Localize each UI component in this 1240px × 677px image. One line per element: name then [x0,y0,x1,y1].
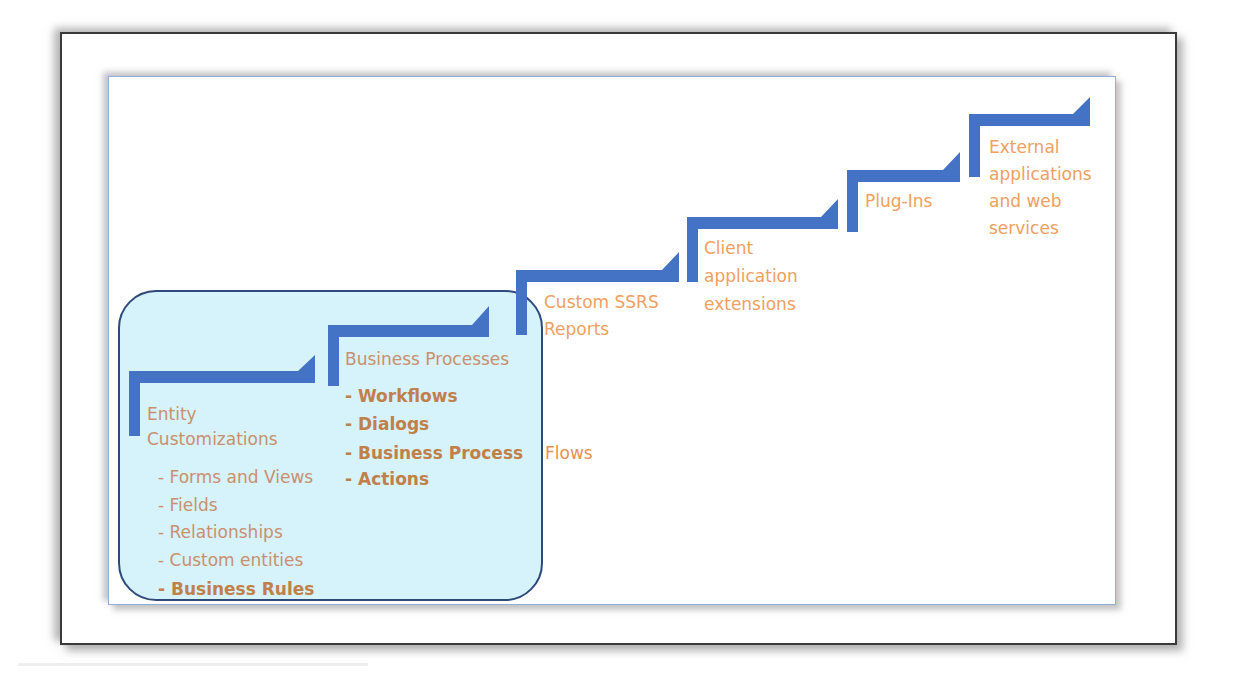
step-6-title-line-4: services [989,216,1059,240]
step-2-bold-item: - Business Process [345,441,523,465]
step-6-title-line-3: and web [989,189,1062,213]
step-2-bold-item: - Dialogs [345,412,429,436]
step-3-title-line-2: Reports [544,317,609,341]
step-2-bold-item: - Actions [345,467,429,491]
step-1-item: - Fields [158,493,218,517]
step-1-title-line-2: Customizations [147,427,278,451]
step-4-title-line-2: application [704,264,798,288]
step-2-bar [328,306,489,386]
step-1-title-line-1: Entity [147,402,197,426]
step-4-title-line-3: extensions [704,292,796,316]
step-6-title-line-2: applications [989,162,1092,186]
step-2-bold-item: - Workflows [345,384,458,408]
step-shape-1 [0,0,1240,677]
step-1-item: - Custom entities [158,548,303,572]
step-3-title-line-1: Custom SSRS [544,290,659,314]
step-1-bold-item: - Business Rules [158,577,314,601]
step-1-item: - Relationships [158,520,283,544]
step-2-title: Business Processes [345,347,509,371]
step-2-overflow-text: Flows [545,441,593,465]
step-6-title-line-1: External [989,135,1060,159]
scan-noise [18,663,368,666]
step-4-title-line-1: Client [704,236,753,260]
step-5-title: Plug-Ins [865,189,932,213]
step-1-item: - Forms and Views [158,465,313,489]
